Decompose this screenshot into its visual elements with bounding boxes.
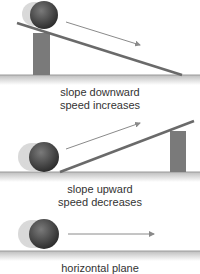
panel-slope-upward	[0, 121, 200, 182]
caption-slope-downward: slope downward speed increases	[0, 86, 200, 112]
ball	[29, 219, 59, 249]
caption-line-1: slope upward	[0, 183, 200, 196]
ball	[30, 1, 58, 29]
caption-line-1: horizontal plane	[0, 262, 200, 274]
ball	[29, 142, 59, 172]
ground	[0, 75, 200, 85]
support-block	[33, 33, 50, 75]
caption-line-2: speed decreases	[0, 196, 200, 209]
ground	[0, 172, 200, 182]
support-block	[170, 131, 186, 172]
caption-horizontal-plane: horizontal plane	[0, 262, 200, 274]
diagram-canvas	[0, 0, 200, 274]
panel-slope-downward	[0, 1, 200, 85]
ground	[0, 251, 200, 261]
caption-line-2: speed increases	[0, 99, 200, 112]
caption-slope-upward: slope upward speed decreases	[0, 183, 200, 209]
caption-line-1: slope downward	[0, 86, 200, 99]
panel-horizontal-plane	[0, 219, 200, 261]
